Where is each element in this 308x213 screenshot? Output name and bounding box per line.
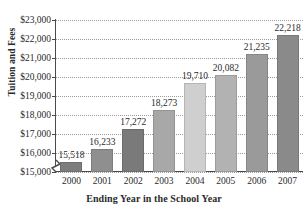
x-tick-label: 2005 bbox=[216, 176, 235, 186]
y-tick-label: $20,000 bbox=[20, 72, 51, 82]
bar[interactable] bbox=[277, 35, 299, 172]
y-axis-title: Tuition and Fees bbox=[7, 7, 17, 117]
x-tick-label: 2006 bbox=[247, 176, 266, 186]
bar-value-label: 19,710 bbox=[182, 71, 208, 81]
bar-value-label: 15,518 bbox=[58, 150, 84, 160]
x-tick-label: 2003 bbox=[155, 176, 174, 186]
bar[interactable] bbox=[215, 75, 237, 172]
bar-group[interactable]: 16,233 bbox=[87, 20, 118, 172]
x-tick-label: 2007 bbox=[278, 176, 297, 186]
x-tick-label: 2000 bbox=[62, 176, 81, 186]
bar[interactable] bbox=[246, 54, 268, 172]
x-tick-label: 2004 bbox=[185, 176, 204, 186]
bar[interactable] bbox=[122, 129, 144, 172]
y-tick-label: $23,000 bbox=[20, 15, 51, 25]
bar-group[interactable]: 17,272 bbox=[118, 20, 149, 172]
y-tick-label: $18,000 bbox=[20, 110, 51, 120]
bar-group[interactable]: 22,218 bbox=[272, 20, 303, 172]
bar-value-label: 20,082 bbox=[213, 63, 239, 73]
bar-value-label: 17,272 bbox=[120, 117, 146, 127]
bar[interactable] bbox=[184, 83, 206, 172]
y-tick-label: $17,000 bbox=[20, 129, 51, 139]
bar-group[interactable]: 19,710 bbox=[180, 20, 211, 172]
y-tick-label: $21,000 bbox=[20, 53, 51, 63]
bar-value-label: 16,233 bbox=[89, 137, 115, 147]
bar-group[interactable]: 20,082 bbox=[210, 20, 241, 172]
bar-value-label: 21,235 bbox=[244, 42, 270, 52]
y-tick-mark bbox=[52, 172, 56, 173]
plot-area: $15,000$16,000$17,000$18,000$19,000$20,0… bbox=[56, 20, 303, 172]
bar-value-label: 22,218 bbox=[275, 23, 301, 33]
x-tick-label: 2001 bbox=[93, 176, 112, 186]
bar[interactable] bbox=[91, 149, 113, 172]
bar-value-label: 18,273 bbox=[151, 98, 177, 108]
y-tick-label: $19,000 bbox=[20, 91, 51, 101]
bar-series: 15,51816,23317,27218,27319,71020,08221,2… bbox=[56, 20, 303, 172]
y-tick-label: $15,000 bbox=[20, 167, 51, 177]
gridline bbox=[56, 172, 303, 173]
bar[interactable] bbox=[60, 162, 82, 172]
bar-group[interactable]: 21,235 bbox=[241, 20, 272, 172]
bar-group[interactable]: 18,273 bbox=[149, 20, 180, 172]
y-tick-label: $22,000 bbox=[20, 34, 51, 44]
x-tick-label: 2002 bbox=[124, 176, 143, 186]
x-axis-title: Ending Year in the School Year bbox=[0, 193, 308, 204]
y-tick-label: $16,000 bbox=[20, 148, 51, 158]
tuition-bar-chart: Tuition and Fees $15,000$16,000$17,000$1… bbox=[0, 0, 308, 213]
bar[interactable] bbox=[153, 110, 175, 172]
bar-group[interactable]: 15,518 bbox=[56, 20, 87, 172]
